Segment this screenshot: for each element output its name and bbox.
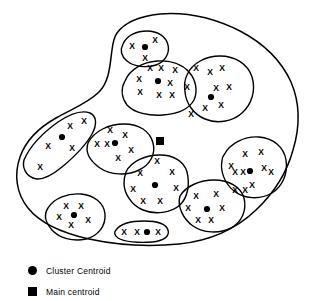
main-centroid-icon xyxy=(28,287,37,296)
cluster-diagram-figure: XXXXXXXXXXXXXXXXXXXXXXXXXXXXXXXXXXXXXXXX… xyxy=(0,0,310,301)
data-point-x: X xyxy=(195,215,201,225)
data-point-x: X xyxy=(249,180,255,190)
data-point-x: X xyxy=(129,41,135,51)
data-point-x: X xyxy=(207,67,213,77)
legend-label-cluster-centroid: Cluster Centroid xyxy=(46,266,111,276)
cluster-centroid-marker xyxy=(71,212,77,218)
data-point-x: X xyxy=(134,227,140,237)
data-point-x: X xyxy=(147,63,153,73)
data-point-x: X xyxy=(81,116,87,126)
cluster-centroid-marker xyxy=(247,168,253,174)
legend-item-main-centroid: Main centroid xyxy=(28,281,278,301)
data-point-x: X xyxy=(156,90,162,100)
data-point-x: X xyxy=(142,53,148,63)
data-point-x: X xyxy=(193,191,199,201)
data-point-x: X xyxy=(130,184,136,194)
cluster-centroid-marker xyxy=(59,134,65,140)
data-point-x: X xyxy=(232,167,238,177)
data-point-x: X xyxy=(67,121,73,131)
data-point-x: X xyxy=(173,183,179,193)
data-point-x: X xyxy=(128,145,134,155)
legend: Cluster Centroid Main centroid xyxy=(28,260,278,301)
data-point-x: X xyxy=(242,185,248,195)
cluster-centroid-icon xyxy=(28,266,37,275)
data-point-x: X xyxy=(261,163,267,173)
data-point-x: X xyxy=(268,167,274,177)
data-point-x: X xyxy=(137,168,143,178)
data-point-x: X xyxy=(158,63,164,73)
cluster-centroid-marker xyxy=(144,229,150,235)
cluster-centroid-marker xyxy=(152,182,158,188)
data-point-x: X xyxy=(258,147,264,157)
cluster-centroid-marker xyxy=(204,206,210,212)
data-point-x: X xyxy=(218,100,224,110)
data-point-x: X xyxy=(45,141,51,151)
data-point-x: X xyxy=(104,139,110,149)
bottom-left-cluster: XXXXX xyxy=(46,194,105,240)
data-point-x: X xyxy=(188,109,194,119)
data-point-x: X xyxy=(226,82,232,92)
cluster-centroid-marker xyxy=(155,78,161,84)
main-centroid-marker xyxy=(156,137,164,145)
data-point-x: X xyxy=(85,215,91,225)
data-point-x: X xyxy=(155,227,161,237)
data-point-x: X xyxy=(37,162,43,172)
data-point-x: X xyxy=(169,167,175,177)
data-point-x: X xyxy=(136,74,142,84)
data-point-x: X xyxy=(140,196,146,206)
data-point-x: X xyxy=(107,125,113,135)
data-point-x: X xyxy=(69,143,75,153)
data-point-x: X xyxy=(219,63,225,73)
data-point-x: X xyxy=(137,87,143,97)
legend-item-cluster-centroid: Cluster Centroid xyxy=(28,260,278,281)
data-point-x: X xyxy=(63,201,69,211)
cluster-diagram-canvas: XXXXXXXXXXXXXXXXXXXXXXXXXXXXXXXXXXXXXXXX… xyxy=(0,0,310,301)
data-point-x: X xyxy=(184,82,190,92)
data-point-x: X xyxy=(193,63,199,73)
data-point-x: X xyxy=(169,90,175,100)
data-point-x: X xyxy=(154,156,160,166)
data-point-x: X xyxy=(157,196,163,206)
bottom-elongated-cluster: XXX xyxy=(115,221,169,242)
data-point-x: X xyxy=(172,65,178,75)
data-point-x: X xyxy=(202,103,208,113)
data-point-x: X xyxy=(121,227,127,237)
cluster-centroid-marker xyxy=(112,140,118,146)
data-point-x: X xyxy=(185,203,191,213)
data-point-x: X xyxy=(242,149,248,159)
data-point-x: X xyxy=(78,201,84,211)
data-point-x: X xyxy=(115,153,121,163)
data-point-x: X xyxy=(152,35,158,45)
cluster-centroid-marker xyxy=(142,44,148,50)
main-centroid xyxy=(156,137,164,145)
data-point-x: X xyxy=(94,139,100,149)
data-point-x: X xyxy=(167,78,173,88)
legend-label-main-centroid: Main centroid xyxy=(46,287,100,297)
data-point-x: X xyxy=(68,220,74,230)
data-point-x: X xyxy=(213,83,219,93)
data-point-x: X xyxy=(240,167,246,177)
upper-right-cluster: XXXXXXXXX xyxy=(184,56,253,122)
data-point-x: X xyxy=(219,203,225,213)
cluster-centroid-marker xyxy=(208,94,214,100)
data-point-x: X xyxy=(208,215,214,225)
data-point-x: X xyxy=(122,130,128,140)
data-point-x: X xyxy=(56,212,62,222)
data-point-x: X xyxy=(213,189,219,199)
